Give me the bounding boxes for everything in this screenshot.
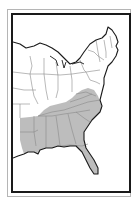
eastern-us-map [0, 0, 138, 207]
